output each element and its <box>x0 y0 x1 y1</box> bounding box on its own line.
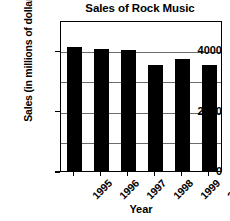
x-tick-label: 1995 <box>89 177 113 201</box>
x-tick-label: 1998 <box>170 177 194 201</box>
y-tick-mark <box>55 51 60 52</box>
x-axis-title: Year <box>60 203 222 215</box>
x-tick-label: 1999 <box>197 177 221 201</box>
bar-chart: Sales of Rock Music Sales (in millions o… <box>0 0 230 221</box>
bar <box>67 47 82 171</box>
y-tick-mark <box>55 171 60 172</box>
x-tick-mark <box>127 172 128 176</box>
bar <box>121 50 136 171</box>
x-tick-label: 1997 <box>143 177 167 201</box>
bar <box>94 49 109 171</box>
y-tick-label: 2000 <box>170 106 230 117</box>
y-tick-label: 0 <box>170 166 230 177</box>
y-axis-title: Sales (in millions of dollars) <box>21 0 35 135</box>
x-tick-mark <box>73 172 74 176</box>
x-tick-label: 1996 <box>116 177 140 201</box>
bar <box>148 65 163 171</box>
y-tick-label: 4000 <box>170 45 230 56</box>
x-tick-mark <box>154 172 155 176</box>
chart-title: Sales of Rock Music <box>52 2 228 14</box>
x-tick-mark <box>208 172 209 176</box>
y-tick-mark <box>55 111 60 112</box>
x-tick-mark <box>100 172 101 176</box>
x-tick-mark <box>181 172 182 176</box>
x-tick-label: 2000 <box>224 177 230 201</box>
bar <box>202 65 217 171</box>
y-axis-title-text: Sales (in millions of dollars) <box>22 0 34 122</box>
